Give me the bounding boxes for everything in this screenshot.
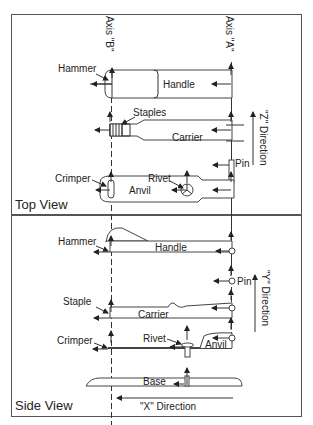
top-anvil-label: Anvil [129,185,151,196]
top-rivet-label: Rivet [148,173,171,184]
top-carrier-label: Carrier [172,132,203,143]
x-direction-label: "X" Direction [140,401,196,412]
side-hammer-label: Hammer [58,236,97,247]
top-handle-label: Handle [163,79,195,90]
side-anvil-label: Anvil [205,339,227,350]
side-view-title: Side View [15,398,73,413]
top-view-title: Top View [15,197,68,212]
axis-b-label: Axis "B" [104,16,115,52]
side-carrier [110,303,232,318]
top-crimper-label: Crimper [55,173,91,184]
axis-a-label: Axis "A" [224,16,235,52]
side-pin-label: Pin [237,276,251,287]
side-base-label: Base [143,376,166,387]
side-pin [229,278,235,284]
top-crimper [108,180,114,198]
top-staples-label: Staples [133,107,166,118]
side-handle-label: Handle [155,242,187,253]
side-carrier-label: Carrier [138,309,169,320]
side-staple-label: Staple [63,296,92,307]
side-rivet-label: Rivet [143,333,166,344]
top-hammer-label: Hammer [58,63,97,74]
z-direction-label: "Z" Direction [258,110,269,165]
stapler-diagram: Axis "B" Axis "A" Handle Hammer Staples … [0,0,313,425]
top-pin-label: Pin [235,158,249,169]
y-direction-label: "Y" Direction [260,270,271,326]
side-crimper-label: Crimper [57,335,93,346]
side-hammer [106,228,148,242]
